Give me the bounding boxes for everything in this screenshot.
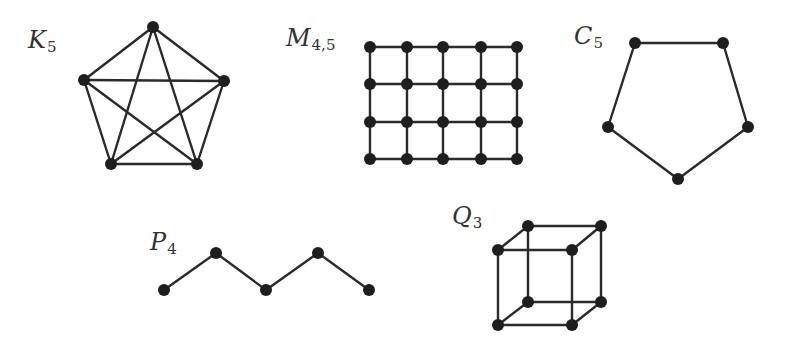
graph-edge (84, 80, 197, 164)
graph-vertex (602, 121, 614, 133)
graph-edge (197, 81, 224, 164)
graph-edge (164, 253, 216, 290)
graph-vertex (437, 153, 449, 165)
label-q3-sub: 3 (473, 214, 483, 232)
label-p4-sub: 4 (167, 240, 177, 258)
label-k5-main: K (28, 26, 46, 54)
label-m45-main: M (286, 24, 311, 52)
graph-vertex (672, 173, 684, 185)
graph-vertex (492, 244, 504, 256)
graph-vertex (511, 116, 523, 128)
label-m45: M4,5 (286, 26, 335, 53)
label-p4-main: P (150, 228, 166, 256)
graph-vertex (566, 319, 578, 331)
graph-vertex (218, 75, 230, 87)
graph-vertex (260, 284, 272, 296)
graph-edge (111, 81, 224, 164)
label-c5-sub: 5 (593, 34, 603, 52)
graph-vertex (401, 78, 413, 90)
graph-vertex (522, 220, 534, 232)
graph-vertex (566, 244, 578, 256)
graph-edge (84, 27, 153, 80)
graph-vertex (210, 247, 222, 259)
graph-vertex (511, 41, 523, 53)
graph-vertex (105, 158, 117, 170)
graph-vertex (312, 247, 324, 259)
graph-vertex (401, 153, 413, 165)
graph-vertex (475, 153, 487, 165)
label-q3: Q3 (452, 204, 482, 231)
graph-vertex (191, 158, 203, 170)
graph-vertex (363, 284, 375, 296)
label-k5-sub: 5 (47, 38, 57, 56)
graph-k5 (78, 21, 230, 170)
label-q3-main: Q (452, 202, 472, 230)
graph-vertex (158, 284, 170, 296)
graph-vertex (437, 41, 449, 53)
graph-edge (318, 253, 369, 290)
graph-edge (111, 27, 153, 164)
graph-vertex (475, 78, 487, 90)
graph-diagram-canvas (0, 0, 785, 347)
label-p4: P4 (150, 230, 177, 257)
graph-edge (153, 27, 197, 164)
graph-edge (678, 127, 748, 179)
graph-vertex (475, 116, 487, 128)
graph-edge (153, 27, 224, 81)
label-c5: C5 (574, 24, 603, 51)
graph-vertex (511, 78, 523, 90)
graph-vertex (629, 37, 641, 49)
graph-vertex (364, 153, 376, 165)
graph-edge (266, 253, 318, 290)
graph-vertex (522, 296, 534, 308)
graph-vertex (364, 41, 376, 53)
label-k5: K5 (28, 28, 56, 55)
graph-edge (84, 80, 111, 164)
graph-vertex (717, 37, 729, 49)
graph-vertex (437, 78, 449, 90)
graph-vertex (742, 121, 754, 133)
graph-edge (216, 253, 266, 290)
graph-vertex (437, 116, 449, 128)
graph-vertex (595, 220, 607, 232)
graph-p4-path (158, 247, 375, 296)
graph-edge (723, 43, 748, 127)
graph-vertex (511, 153, 523, 165)
graph-edge (84, 80, 224, 81)
graph-vertex (364, 78, 376, 90)
graph-vertex (147, 21, 159, 33)
graph-vertex (401, 41, 413, 53)
graph-vertex (492, 319, 504, 331)
label-m45-sub: 4,5 (312, 36, 336, 54)
graph-vertex (595, 296, 607, 308)
graph-vertex (401, 116, 413, 128)
graph-edge (608, 127, 678, 179)
graph-m45-grid (364, 41, 523, 165)
graph-vertex (475, 41, 487, 53)
label-c5-main: C (574, 22, 592, 50)
graph-edge (608, 43, 635, 127)
graph-q3-cube (492, 220, 607, 331)
graph-vertex (78, 74, 90, 86)
graph-vertex (364, 116, 376, 128)
graph-c5-cycle (602, 37, 754, 185)
